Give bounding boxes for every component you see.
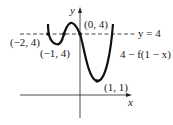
label-point-0-4: (0, 4): [84, 18, 108, 31]
y-axis-arrow-icon: [78, 7, 82, 13]
curve-label: 4 − f(1 − x): [120, 48, 171, 61]
y-axis-label: y: [69, 4, 75, 16]
label-point-1-1: (1, 1): [104, 81, 128, 94]
reference-line-label: y = 4: [138, 27, 161, 39]
point-neg2-4: [46, 32, 50, 36]
point-1-1: [95, 79, 99, 83]
graph: x y y = 4 (−2, 4) (−1, 4) (0, 4) (1, 1) …: [0, 0, 173, 125]
x-axis-label: x: [127, 96, 133, 108]
point-0-4: [78, 32, 82, 36]
label-point-neg1-4: (−1, 4): [40, 47, 70, 60]
label-point-neg2-4: (−2, 4): [10, 36, 40, 49]
